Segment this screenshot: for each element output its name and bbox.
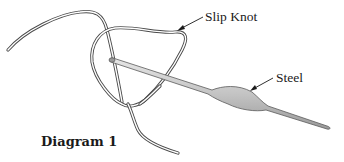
diagram-caption: Diagram 1: [41, 134, 117, 149]
yarn-thread: [8, 12, 186, 153]
slip-knot-arrow: [177, 17, 203, 31]
steel-arrow: [250, 78, 273, 91]
steel-label: Steel: [276, 70, 303, 86]
steel-crochet-hook: [109, 58, 330, 129]
slip-knot-label: Slip Knot: [205, 9, 257, 25]
